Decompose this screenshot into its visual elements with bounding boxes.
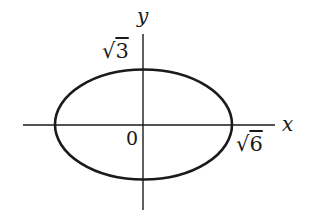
radical-sign: √ <box>102 39 115 63</box>
y-intercept-label: √3 <box>102 41 129 62</box>
radical-sign: √ <box>236 132 249 156</box>
diagram-canvas <box>0 0 313 217</box>
radicand: 3 <box>115 39 128 63</box>
radicand: 6 <box>249 132 262 156</box>
y-axis-label: y <box>137 6 148 26</box>
ellipse-diagram: y √3 x 0 √6 <box>0 0 313 217</box>
x-axis-label: x <box>282 114 293 134</box>
origin-label: 0 <box>126 129 138 148</box>
x-intercept-label: √6 <box>236 134 263 155</box>
